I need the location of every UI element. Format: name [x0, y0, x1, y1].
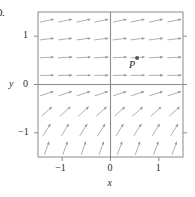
y-axis-label: y: [9, 78, 13, 89]
figure-container: 0. 1 0 −1 −1 0 1 x y P: [0, 0, 195, 197]
axis-lines: [38, 12, 183, 157]
vector-field-plot: [0, 0, 195, 197]
y-tick-label-minus-1: −1: [18, 126, 29, 137]
point-p-marker: [135, 56, 139, 60]
x-tick-label-1: 1: [156, 162, 161, 173]
x-tick-label-minus-1: −1: [55, 162, 66, 173]
y-tick-label-0: 0: [23, 78, 28, 89]
x-axis-label: x: [108, 177, 112, 188]
y-tick-label-1: 1: [23, 29, 28, 40]
point-p-label: P: [129, 59, 135, 70]
x-tick-label-0: 0: [108, 162, 113, 173]
